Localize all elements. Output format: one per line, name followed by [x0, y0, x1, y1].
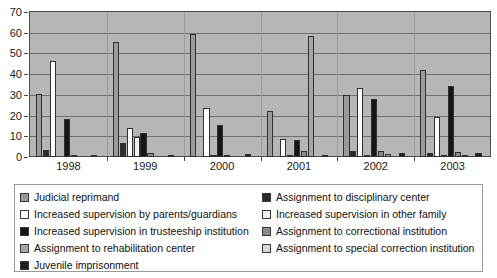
bar — [378, 151, 384, 157]
legend-label: Juvenile imprisonment — [34, 260, 138, 271]
bar — [441, 155, 447, 157]
bar-group — [30, 12, 107, 157]
bar — [140, 133, 146, 157]
bar — [71, 155, 77, 157]
bar — [357, 88, 363, 157]
y-axis: 010203040506070 — [0, 0, 29, 158]
legend-item[interactable]: Juvenile imprisonment — [20, 257, 260, 273]
y-axis-tick-label: 30 — [10, 89, 22, 100]
legend-item[interactable]: Assignment to disciplinary center — [262, 189, 492, 205]
y-axis-tick-mark — [24, 12, 28, 13]
legend-swatch-icon — [262, 227, 271, 236]
x-axis-tick-label: 2000 — [210, 160, 234, 172]
bar — [399, 153, 405, 157]
bar — [113, 42, 119, 157]
bar-group — [184, 12, 261, 157]
legend-label: Judicial reprimand — [34, 192, 119, 203]
bar — [371, 99, 377, 157]
legend-column-left: Judicial reprimandIncreased supervision … — [20, 189, 260, 274]
bar — [43, 150, 49, 157]
legend-label: Increased supervision in other family — [276, 209, 446, 220]
bar — [364, 155, 370, 157]
bar — [308, 36, 314, 157]
y-axis-tick-mark — [24, 53, 28, 54]
bar-group — [107, 12, 184, 157]
bar — [434, 117, 440, 157]
bar — [147, 153, 153, 157]
x-axis-tick-label: 1999 — [133, 160, 157, 172]
bar-group — [261, 12, 338, 157]
bar — [455, 152, 461, 157]
bar — [210, 155, 216, 157]
y-axis-tick-label: 50 — [10, 48, 22, 59]
legend: Judicial reprimandIncreased supervision … — [14, 184, 483, 272]
legend-swatch-icon — [20, 193, 29, 202]
x-axis: 199819992000200120022003 — [30, 160, 491, 178]
y-axis-tick-mark — [24, 95, 28, 96]
y-axis-tick-mark — [24, 116, 28, 117]
legend-swatch-icon — [262, 244, 271, 253]
bar — [322, 155, 328, 157]
legend-label: Assignment to correctional institution — [276, 226, 447, 237]
bars-layer — [30, 12, 491, 157]
bar — [224, 155, 230, 157]
y-axis-tick-label: 40 — [10, 69, 22, 80]
y-axis-tick-label: 10 — [10, 131, 22, 142]
bar — [36, 94, 42, 157]
bar — [217, 125, 223, 157]
bar — [120, 143, 126, 158]
bar — [462, 155, 468, 157]
legend-item[interactable]: Assignment to special correction institu… — [262, 240, 492, 256]
legend-item[interactable]: Increased supervision in trusteeship ins… — [20, 223, 260, 239]
bar — [64, 119, 70, 157]
legend-swatch-icon — [20, 261, 29, 270]
x-axis-tick-label: 1998 — [56, 160, 80, 172]
bar — [127, 128, 133, 157]
bar — [203, 108, 209, 157]
bar — [267, 111, 273, 157]
bar — [91, 155, 97, 157]
y-axis-tick-label: 0 — [16, 152, 22, 163]
y-axis-tick-mark — [24, 33, 28, 34]
bar — [420, 70, 426, 157]
bar — [134, 137, 140, 157]
bar-chart: 010203040506070 199819992000200120022003 — [0, 0, 497, 178]
legend-label: Assignment to special correction institu… — [276, 243, 474, 254]
y-axis-tick-mark — [24, 157, 28, 158]
bar — [385, 154, 391, 157]
bar — [448, 86, 454, 157]
bar — [245, 154, 251, 157]
legend-label: Assignment to disciplinary center — [276, 192, 430, 203]
legend-label: Increased supervision by parents/guardia… — [34, 209, 237, 220]
legend-swatch-icon — [262, 193, 271, 202]
bar — [427, 153, 433, 157]
x-axis-tick-label: 2003 — [440, 160, 464, 172]
y-axis-tick-label: 60 — [10, 27, 22, 38]
y-axis-tick-mark — [24, 136, 28, 137]
bar-group — [337, 12, 414, 157]
chart-screenshot: 010203040506070 199819992000200120022003… — [0, 0, 497, 278]
x-axis-tick-label: 2002 — [364, 160, 388, 172]
y-axis-tick-label: 70 — [10, 7, 22, 18]
legend-swatch-icon — [262, 210, 271, 219]
legend-item[interactable]: Assignment to rehabilitation center — [20, 240, 260, 256]
bar — [350, 151, 356, 157]
legend-item[interactable]: Increased supervision in other family — [262, 206, 492, 222]
bar — [301, 151, 307, 157]
legend-item[interactable]: Judicial reprimand — [20, 189, 260, 205]
bar — [343, 95, 349, 157]
legend-label: Assignment to rehabilitation center — [34, 243, 195, 254]
bar — [168, 155, 174, 157]
bar — [475, 153, 481, 157]
bar — [50, 61, 56, 157]
bar — [190, 34, 196, 157]
legend-item[interactable]: Assignment to correctional institution — [262, 223, 492, 239]
bar — [287, 155, 293, 157]
bar — [280, 139, 286, 157]
y-axis-tick-label: 20 — [10, 110, 22, 121]
bar-group — [414, 12, 491, 157]
legend-label: Increased supervision in trusteeship ins… — [34, 226, 249, 237]
legend-item[interactable]: Increased supervision by parents/guardia… — [20, 206, 260, 222]
legend-swatch-icon — [20, 244, 29, 253]
y-axis-tick-mark — [24, 74, 28, 75]
